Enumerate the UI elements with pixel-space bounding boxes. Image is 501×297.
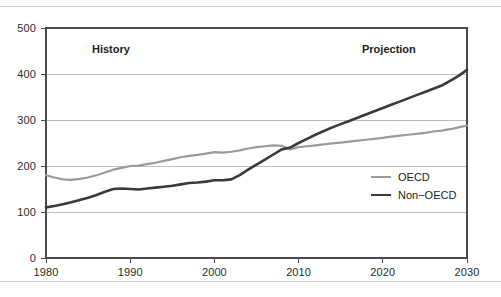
x-tick-2020: 2020 (361, 267, 405, 278)
y-tick-500: 500 (4, 23, 36, 34)
y-tick-100: 100 (4, 207, 36, 218)
y-tick-300: 300 (4, 115, 36, 126)
chart-figure: 0100200300400500 19801990200020102020203… (0, 0, 501, 297)
legend-swatch-non-oecd (371, 194, 391, 196)
chart-legend: OECD Non−OECD (371, 168, 456, 204)
x-tick-1980: 1980 (24, 267, 68, 278)
y-tick-200: 200 (4, 161, 36, 172)
line-chart-canvas (0, 0, 501, 297)
x-tick-2010: 2010 (277, 267, 321, 278)
y-tick-400: 400 (4, 69, 36, 80)
x-tick-2000: 2000 (192, 267, 236, 278)
y-tick-0: 0 (4, 253, 36, 264)
legend-item-oecd: OECD (371, 168, 456, 186)
plot-frame (46, 28, 467, 258)
annotation-history: History (92, 44, 130, 55)
x-tick-2030: 2030 (445, 267, 489, 278)
legend-label-oecd: OECD (398, 172, 430, 183)
x-tick-1990: 1990 (108, 267, 152, 278)
legend-swatch-oecd (371, 176, 391, 178)
annotation-projection: Projection (362, 44, 416, 55)
legend-label-non-oecd: Non−OECD (398, 190, 456, 201)
legend-item-non-oecd: Non−OECD (371, 186, 456, 204)
